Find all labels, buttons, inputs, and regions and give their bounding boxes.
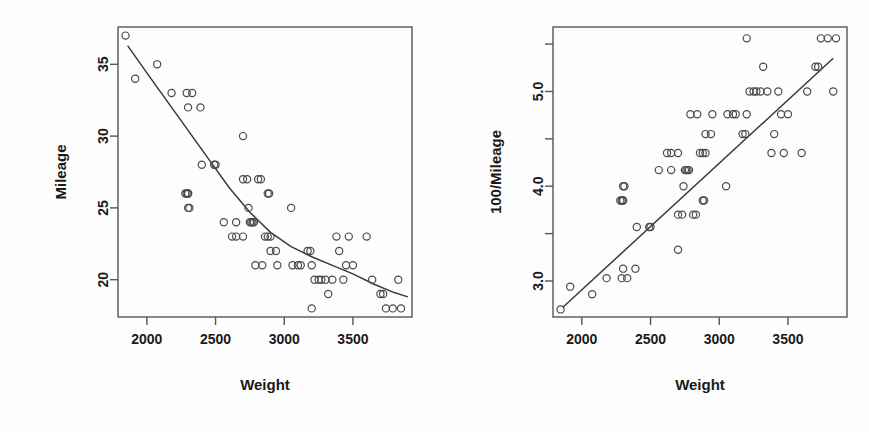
scatter-plot-inverse-mileage: 20002500300035003.04.05.0Weight100/Milea… (435, 0, 869, 432)
data-point (382, 305, 389, 312)
data-point (780, 149, 787, 156)
data-point (395, 276, 402, 283)
data-point (345, 233, 352, 240)
data-point (567, 283, 574, 290)
x-tick-label: 2500 (200, 331, 231, 347)
data-point (804, 88, 811, 95)
data-point (760, 63, 767, 70)
data-point (272, 247, 279, 254)
data-point (308, 262, 315, 269)
data-point (154, 61, 161, 68)
y-tick-label: 35 (95, 56, 111, 72)
x-tick-label: 2000 (566, 331, 597, 347)
data-point (325, 290, 332, 297)
y-tick-label: 20 (95, 272, 111, 288)
data-point (674, 246, 681, 253)
x-tick-label: 3000 (269, 331, 300, 347)
x-tick-label: 3500 (337, 331, 368, 347)
data-point (329, 276, 336, 283)
data-points (557, 35, 840, 313)
y-tick-label: 4.0 (530, 176, 546, 196)
scatter-plot-mileage: 200025003000350020253035WeightMileage (0, 0, 434, 432)
data-point (723, 183, 730, 190)
data-point (784, 111, 791, 118)
chart-panel-mileage-vs-weight: 200025003000350020253035WeightMileage (0, 0, 434, 432)
data-point (274, 262, 281, 269)
data-point (674, 149, 681, 156)
data-point (694, 111, 701, 118)
y-tick-label: 5.0 (530, 82, 546, 102)
x-tick-label: 3500 (772, 331, 803, 347)
y-axis-title: Mileage (52, 144, 69, 199)
data-point (830, 88, 837, 95)
data-point (824, 35, 831, 42)
data-point (122, 32, 129, 39)
y-axis-title: 100/Mileage (487, 130, 504, 214)
data-point (198, 161, 205, 168)
data-point (184, 104, 191, 111)
data-point (589, 291, 596, 298)
data-point (189, 89, 196, 96)
data-point (239, 233, 246, 240)
data-point (333, 233, 340, 240)
x-axis-title: Weight (675, 376, 725, 393)
x-tick-label: 2000 (131, 331, 162, 347)
data-point (239, 133, 246, 140)
data-point (632, 265, 639, 272)
x-axis-title: Weight (240, 376, 290, 393)
data-point (220, 219, 227, 226)
data-point (775, 88, 782, 95)
data-point (764, 88, 771, 95)
data-points (122, 32, 405, 312)
data-point (743, 111, 750, 118)
y-tick-label: 30 (95, 128, 111, 144)
y-tick-label: 3.0 (530, 271, 546, 291)
plot-frame (553, 27, 847, 317)
x-tick-label: 3000 (704, 331, 735, 347)
data-point (389, 305, 396, 312)
data-point (349, 262, 356, 269)
data-point (336, 247, 343, 254)
fitted-curve (563, 58, 834, 307)
data-point (743, 35, 750, 42)
data-point (832, 35, 839, 42)
x-tick-label: 2500 (635, 331, 666, 347)
data-point (817, 35, 824, 42)
data-point (709, 111, 716, 118)
data-point (777, 111, 784, 118)
data-point (259, 262, 266, 269)
data-point (768, 149, 775, 156)
data-point (342, 262, 349, 269)
data-point (655, 167, 662, 174)
data-point (668, 167, 675, 174)
data-point (363, 233, 370, 240)
data-point (798, 149, 805, 156)
data-point (197, 104, 204, 111)
figure-panel-pair: 200025003000350020253035WeightMileage 20… (0, 0, 869, 432)
data-point (680, 183, 687, 190)
data-point (369, 276, 376, 283)
data-point (233, 219, 240, 226)
data-point (707, 130, 714, 137)
data-point (633, 223, 640, 230)
data-point (340, 276, 347, 283)
data-point (687, 111, 694, 118)
fitted-curve (128, 46, 408, 297)
plot-frame (118, 27, 412, 317)
data-point (624, 275, 631, 282)
y-tick-label: 25 (95, 200, 111, 216)
data-point (308, 305, 315, 312)
data-point (252, 262, 259, 269)
chart-panel-inverse-mileage-vs-weight: 20002500300035003.04.05.0Weight100/Milea… (435, 0, 869, 432)
data-point (771, 130, 778, 137)
data-point (603, 275, 610, 282)
data-point (288, 204, 295, 211)
data-point (619, 265, 626, 272)
data-point (132, 75, 139, 82)
data-point (168, 89, 175, 96)
data-point (397, 305, 404, 312)
data-point (557, 306, 564, 313)
